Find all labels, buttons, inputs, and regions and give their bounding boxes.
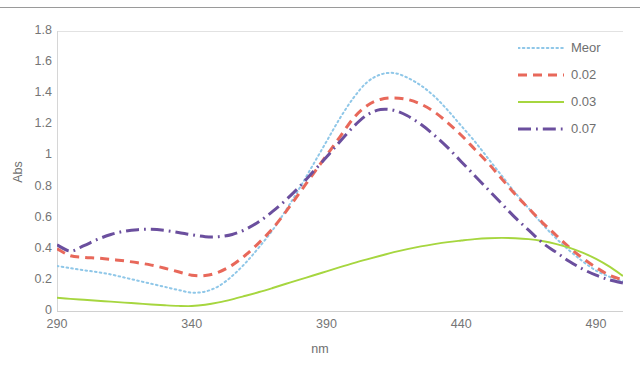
legend: Meor0.020.030.07 [518, 34, 640, 142]
y-axis-tick-label: 0.2 [8, 273, 52, 286]
legend-item[interactable]: 0.03 [518, 88, 640, 115]
series-line [57, 238, 623, 306]
y-axis-tick-label: 0.6 [8, 211, 52, 224]
legend-swatch-icon [518, 124, 564, 134]
legend-swatch-icon [518, 70, 564, 80]
y-axis-tick-labels: 1.81.61.41.210.80.60.40.20 [0, 0, 52, 365]
x-axis-tick-label: 390 [297, 318, 357, 331]
x-axis-title: nm [0, 342, 640, 356]
legend-item[interactable]: 0.07 [518, 115, 640, 142]
plot-frame-bottom-axis [57, 311, 623, 312]
x-axis-tick-label: 340 [162, 318, 222, 331]
legend-item-label: 0.03 [571, 94, 596, 109]
y-axis-tick-label: 1.2 [8, 117, 52, 130]
legend-swatch-icon [518, 97, 564, 107]
legend-item-label: 0.07 [571, 121, 596, 136]
y-axis-tick-label: 1.4 [8, 86, 52, 99]
legend-swatch-icon [518, 43, 564, 53]
y-axis-tick-label: 0 [8, 304, 52, 317]
y-axis-tick-label: 1.6 [8, 55, 52, 68]
y-axis-title: Abs [11, 142, 25, 202]
x-axis-tick-label: 290 [27, 318, 87, 331]
x-axis-tick-label: 490 [566, 318, 626, 331]
x-axis-tick-label: 440 [431, 318, 491, 331]
y-axis-tick-label: 1.8 [8, 24, 52, 37]
absorbance-spectrum-chart: 1.81.61.41.210.80.60.40.20 nm Abs Meor0.… [0, 0, 640, 365]
y-axis-tick-label: 0.4 [8, 242, 52, 255]
legend-item-label: Meor [571, 40, 601, 55]
legend-item-label: 0.02 [571, 67, 596, 82]
legend-item[interactable]: 0.02 [518, 61, 640, 88]
legend-item[interactable]: Meor [518, 34, 640, 61]
